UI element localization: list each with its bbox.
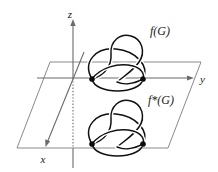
z-axis-label: z bbox=[67, 8, 73, 20]
x-axis-line bbox=[47, 52, 84, 143]
x-axis-arrowhead bbox=[45, 139, 50, 147]
x-axis-label: x bbox=[40, 153, 46, 165]
z-axis-arrowhead bbox=[70, 19, 75, 26]
diagram-svg: z y x bbox=[0, 0, 218, 172]
y-axis-arrowhead bbox=[187, 75, 194, 80]
z-axis: z bbox=[67, 8, 76, 168]
lower-vertex-left bbox=[89, 141, 94, 146]
lower-embedding-label: f*(G) bbox=[148, 93, 174, 107]
upper-edge-knot-halo bbox=[92, 35, 142, 82]
lower-vertex-right bbox=[140, 141, 145, 146]
y-axis-label: y bbox=[199, 73, 205, 85]
lower-edge-knot-halo bbox=[92, 100, 142, 147]
figure-canvas: z y x bbox=[0, 0, 218, 172]
embedding-upper: f(G) bbox=[89, 24, 170, 91]
embedding-lower: f*(G) bbox=[89, 93, 174, 156]
upper-embedding-label: f(G) bbox=[150, 24, 170, 38]
upper-vertex-right bbox=[140, 76, 145, 81]
upper-vertex-left bbox=[89, 76, 94, 81]
